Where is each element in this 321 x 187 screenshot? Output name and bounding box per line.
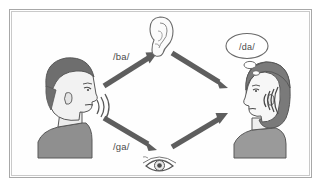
speaker-pupil <box>87 89 89 91</box>
thought-bubble-tail-2 <box>252 71 259 76</box>
listener-pupil <box>255 90 257 92</box>
thought-bubble-tail-1 <box>244 61 256 68</box>
listener-mouth <box>249 109 256 110</box>
label-auditory-ba: /ba/ <box>113 51 130 62</box>
eye-pupil <box>157 163 162 168</box>
mcgurk-effect-diagram: /da/ /ba/ /ga/ <box>0 0 321 187</box>
diagram-canvas: /da/ /ba/ /ga/ <box>0 0 321 187</box>
label-visual-ga: /ga/ <box>113 141 130 152</box>
speaker-ear <box>65 93 73 105</box>
speaker-mouth <box>85 105 93 106</box>
thought-bubble-text: /da/ <box>239 42 255 52</box>
